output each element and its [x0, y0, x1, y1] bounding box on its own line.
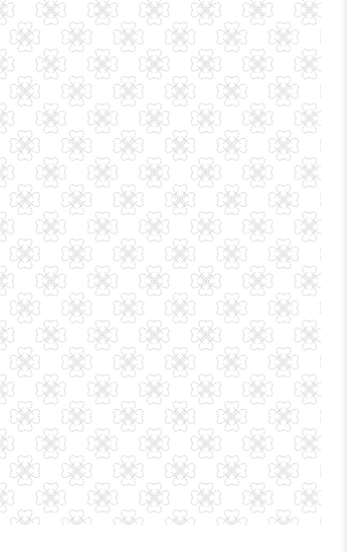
right-edge-shadow: [341, 0, 347, 552]
flower-pattern-background: [0, 0, 347, 552]
flower-pattern-svg: [0, 0, 347, 552]
